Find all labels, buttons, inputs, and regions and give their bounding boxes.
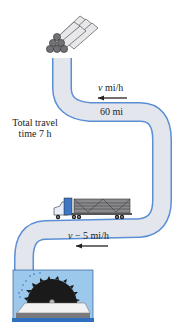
road-diagram: [0, 0, 178, 336]
truck-icon: [54, 198, 132, 219]
diagram-canvas: v mi/h 60 mi Total travel time 7 h v − 5…: [0, 0, 178, 336]
total-time-label: Total travel time 7 h: [10, 117, 60, 139]
arrow-left-icon: [76, 244, 108, 249]
distance-label: 60 mi: [100, 106, 123, 117]
sawmill-icon: [12, 270, 94, 322]
arrow-left-icon: [98, 96, 127, 101]
speed-label-second: v − 5 mi/h: [68, 230, 109, 241]
log-pile-icon: [46, 16, 98, 53]
speed-label-first: v mi/h: [98, 82, 123, 93]
